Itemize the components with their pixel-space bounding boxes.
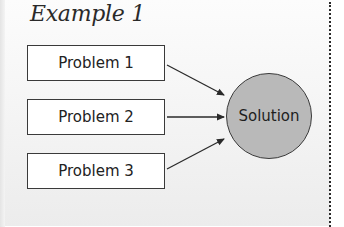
problem-box-3: Problem 3 — [27, 153, 165, 189]
problem-label: Problem 1 — [58, 54, 134, 72]
dotted-divider — [329, 2, 331, 227]
problem-box-2: Problem 2 — [27, 99, 165, 135]
solution-label: Solution — [238, 107, 299, 125]
diagram-title: Example 1 — [30, 1, 145, 26]
problem-label: Problem 2 — [58, 108, 134, 126]
problem-box-1: Problem 1 — [27, 45, 165, 81]
solution-circle: Solution — [226, 73, 312, 159]
problem-label: Problem 3 — [58, 162, 134, 180]
